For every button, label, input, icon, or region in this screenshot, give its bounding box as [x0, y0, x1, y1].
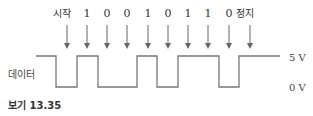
bit-label: 0: [165, 7, 172, 20]
down-arrow-icon: [124, 43, 130, 49]
bit-label: 1: [205, 7, 212, 20]
low-voltage-label: 0 V: [289, 82, 307, 93]
bit-arrows: [64, 25, 253, 49]
down-arrow-icon: [104, 43, 110, 49]
serial-data-diagram: 시작10010110정지 5 V 0 V 데이터 보기 13.35: [0, 0, 313, 116]
bit-label: 1: [84, 7, 91, 20]
down-arrow-icon: [165, 43, 171, 49]
bit-label: 0: [226, 7, 233, 20]
down-arrow-icon: [247, 43, 253, 49]
bit-label: 정지: [236, 8, 254, 19]
down-arrow-icon: [205, 43, 211, 49]
down-arrow-icon: [84, 43, 90, 49]
bit-label: 1: [145, 7, 152, 20]
bit-labels: 시작10010110정지: [53, 7, 254, 20]
down-arrow-icon: [185, 43, 191, 49]
bit-label: 0: [104, 7, 111, 20]
bit-label: 1: [185, 7, 192, 20]
high-voltage-label: 5 V: [289, 52, 307, 63]
down-arrow-icon: [145, 43, 151, 49]
data-signal-label: 데이터: [8, 66, 35, 81]
down-arrow-icon: [64, 43, 70, 49]
figure-caption: 보기 13.35: [8, 97, 61, 112]
down-arrow-icon: [226, 43, 232, 49]
bit-label: 0: [124, 7, 131, 20]
data-waveform: [36, 56, 280, 87]
bit-label: 시작: [53, 8, 71, 19]
